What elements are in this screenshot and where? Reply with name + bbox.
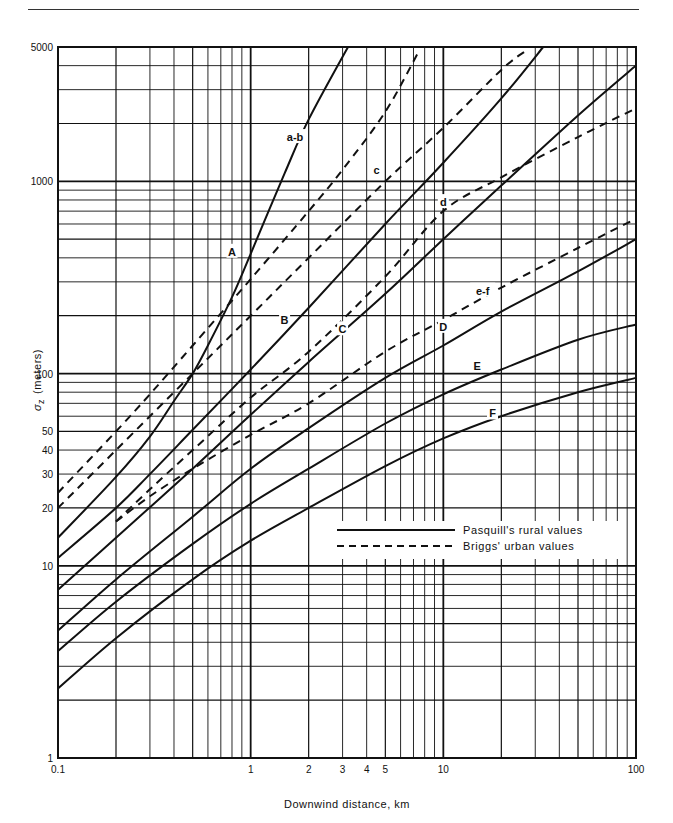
y-axis-unit: (meters) [31,349,43,394]
y-axis-subscript: z [36,399,46,404]
curve-label-a: A [228,246,236,258]
plot-curves [58,47,636,689]
x-axis-ticks: 0.11234510100 [51,764,645,775]
x-tick-label: 2 [306,764,312,775]
x-tick-label: 1 [248,764,254,775]
legend-label-rural: Pasquill's rural values [463,524,583,536]
curve-label-b: B [281,314,289,326]
curve-label-a-b: a-b [287,131,304,143]
x-tick-label: 0.1 [51,764,65,775]
curve-label-c: c [373,164,379,176]
y-tick-label: 5000 [31,42,54,53]
curve-d [58,239,636,630]
y-tick-label: 1 [47,753,53,764]
y-tick-label: 10 [42,561,54,572]
legend-label-urban: Briggs' urban values [463,540,574,552]
y-axis-title: σz(meters) [31,349,46,411]
x-tick-label: 4 [364,764,370,775]
curve-label-d: D [439,321,447,333]
legend: Pasquill's rural values Briggs' urban va… [320,521,626,559]
y-tick-label: 1000 [31,176,54,187]
curve-label-d: d [440,196,447,208]
y-tick-label: 30 [42,469,54,480]
curve-label-e: E [474,360,481,372]
curve-label-f: F [489,407,496,419]
curve-label-e-f: e-f [476,285,490,297]
y-tick-label: 40 [42,445,54,456]
y-tick-label: 50 [42,426,54,437]
curve-labels: ABCDEFa-bcde-f [226,129,498,419]
y-tick-label: 20 [42,503,54,514]
x-tick-label: 10 [438,764,450,775]
x-tick-label: 5 [383,764,389,775]
curve-label-c: C [339,323,347,335]
x-tick-label: 3 [340,764,346,775]
sigma-z-chart: ABCDEFa-bcde-f Pasquill's rural values B… [0,0,673,823]
y-axis-symbol: σ [31,404,43,411]
x-axis-title: Downwind distance, km [284,798,410,810]
x-tick-label: 100 [628,764,645,775]
